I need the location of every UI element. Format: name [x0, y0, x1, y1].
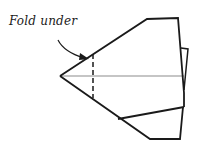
lower-wing-outline: [60, 76, 183, 139]
wing-crease-line: [118, 107, 184, 119]
curved-arrow-icon: [58, 40, 89, 60]
upper-wing-outline: [60, 18, 184, 93]
paper-airplane-diagram: [0, 0, 202, 153]
